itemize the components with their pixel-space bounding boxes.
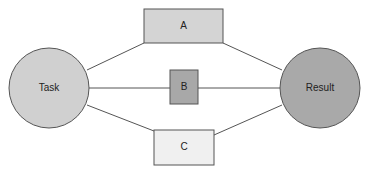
node-b: B xyxy=(170,70,198,104)
node-result-label: Result xyxy=(306,82,335,93)
node-b-label: B xyxy=(181,81,188,92)
edge-task-a xyxy=(87,43,144,70)
edge-task-c xyxy=(87,105,154,131)
node-a-label: A xyxy=(180,20,187,31)
node-task-label: Task xyxy=(39,82,61,93)
edge-a-result xyxy=(223,43,282,70)
node-a: A xyxy=(144,9,223,43)
node-c-label: C xyxy=(180,141,187,152)
edge-c-result xyxy=(214,105,282,135)
diagram-canvas: Task A B C Result xyxy=(0,0,370,176)
node-c: C xyxy=(154,130,214,165)
node-task: Task xyxy=(9,48,89,128)
node-result: Result xyxy=(280,48,360,128)
